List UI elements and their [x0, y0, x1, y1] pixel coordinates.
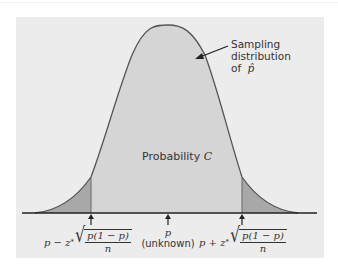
sqrt: √ p(1 − p) n: [230, 229, 287, 255]
curve-center-area: [91, 25, 242, 213]
lower-bound-formula: p − z * √ p(1 − p) n: [44, 229, 132, 255]
sampling-distribution-label: Sampling distribution of p̂: [231, 38, 291, 74]
numerator: p(1 − p): [240, 230, 286, 243]
label-line-2: distribution: [231, 50, 291, 62]
upper-bound-formula: p + z * √ p(1 − p) n: [199, 229, 287, 255]
lower-bound-prefix: p − z: [44, 237, 70, 248]
label-line-3: of p̂: [231, 62, 291, 74]
probability-text: Probability: [142, 150, 200, 163]
right-tail-area: [242, 177, 298, 213]
denominator: n: [260, 243, 266, 255]
center-marker-label: p (unknown): [141, 228, 195, 250]
center-arrow-icon: [165, 214, 171, 225]
probability-c-label: Probability C: [142, 151, 212, 163]
z-star: *: [70, 238, 74, 246]
c-variable: C: [204, 150, 212, 163]
sqrt-icon: √: [230, 225, 240, 259]
fraction: p(1 − p) n: [84, 229, 132, 255]
p-symbol: p: [141, 228, 195, 238]
fraction: p(1 − p) n: [239, 229, 287, 255]
z-star: *: [225, 238, 229, 246]
sqrt: √ p(1 − p) n: [75, 229, 132, 255]
label-line-1: Sampling: [231, 38, 291, 50]
numerator: p(1 − p): [85, 230, 131, 243]
left-arrow-icon: [88, 214, 94, 225]
label-of-text: of: [231, 62, 241, 74]
p-hat-symbol: p̂: [247, 62, 254, 74]
upper-bound-prefix: p + z: [199, 237, 225, 248]
denominator: n: [105, 243, 111, 255]
unknown-text: (unknown): [141, 238, 195, 250]
sqrt-icon: √: [75, 225, 85, 259]
left-tail-area: [35, 177, 91, 213]
